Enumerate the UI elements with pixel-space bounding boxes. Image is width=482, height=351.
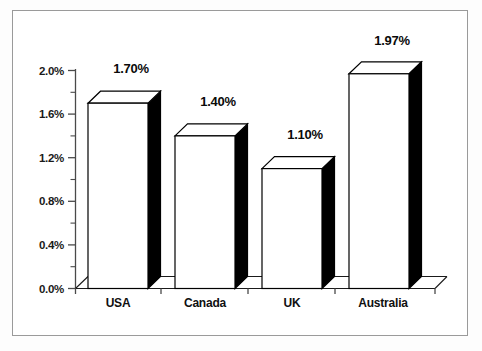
y-tick-label-4: 1.6% — [39, 108, 64, 120]
bar-chart-canvas: 0.0% 0.4% 0.8% 1.2% 1.6% 2.0% — [0, 0, 482, 351]
bar-australia[interactable] — [349, 62, 422, 289]
bar-value-label-canada: 1.40% — [200, 94, 236, 109]
y-tick-label-3: 1.2% — [39, 152, 64, 164]
bar-usa[interactable] — [88, 91, 161, 288]
y-tick-label-2: 0.8% — [39, 195, 64, 207]
x-axis-ticks — [76, 289, 436, 295]
chart-root: 0.0% 0.4% 0.8% 1.2% 1.6% 2.0% — [0, 0, 482, 351]
x-category-label-usa: USA — [106, 296, 131, 310]
y-tick-label-5: 2.0% — [39, 65, 64, 77]
x-category-label-canada: Canada — [184, 296, 227, 310]
x-category-label-australia: Australia — [358, 296, 408, 310]
x-category-label-uk: UK — [284, 296, 301, 310]
y-axis — [68, 69, 76, 289]
y-tick-label-0: 0.0% — [39, 283, 64, 295]
y-tick-label-1: 0.4% — [39, 239, 64, 251]
bar-canada[interactable] — [175, 124, 248, 289]
bar-value-label-australia: 1.97% — [374, 33, 410, 48]
bar-value-label-uk: 1.10% — [287, 127, 323, 142]
bar-value-label-usa: 1.70% — [113, 61, 149, 76]
bar-uk[interactable] — [262, 157, 335, 289]
